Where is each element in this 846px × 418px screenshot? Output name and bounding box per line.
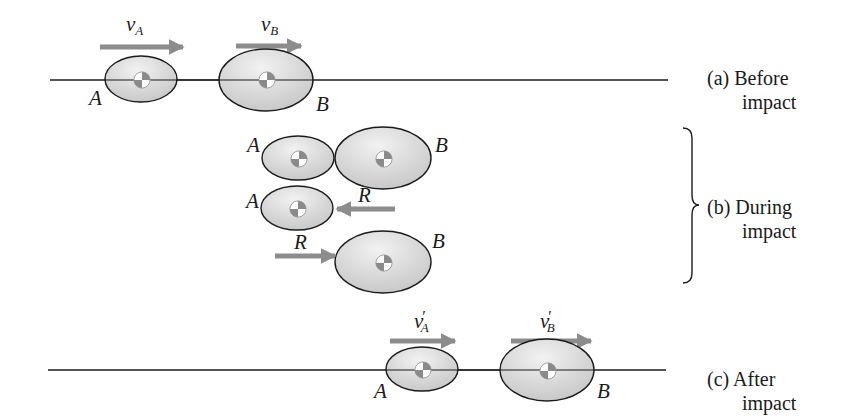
center-of-mass-icon — [259, 72, 275, 88]
panel-after-impact — [48, 339, 666, 401]
center-of-mass-icon — [415, 362, 431, 378]
body-label-b: B — [316, 94, 329, 115]
body-label-b-after: B — [597, 381, 610, 402]
velocity-label-a-after: v′A — [414, 309, 429, 334]
caption-during-impact: (b) Duringimpact — [707, 195, 796, 243]
center-of-mass-icon — [376, 255, 392, 271]
panel-before-impact — [50, 46, 668, 111]
center-of-mass-icon — [134, 72, 150, 88]
center-of-mass-icon — [540, 363, 556, 379]
center-of-mass-icon — [376, 151, 392, 167]
curly-brace — [683, 128, 699, 283]
velocity-label-a: vA — [126, 14, 143, 37]
body-label-a-after: A — [374, 381, 387, 402]
center-of-mass-icon — [290, 201, 306, 217]
body-label-a: A — [89, 88, 102, 109]
caption-before-impact: (a) Beforeimpact — [707, 66, 796, 114]
force-label-on-a: R — [358, 185, 371, 206]
body-label-b-contact: B — [435, 135, 448, 156]
body-label-b-free: B — [432, 231, 445, 252]
velocity-label-b-after: v′B — [540, 309, 555, 334]
caption-after-impact: (c) Afterimpact — [707, 367, 796, 415]
center-of-mass-icon — [291, 151, 307, 167]
panel-during-impact — [261, 127, 699, 293]
body-label-a-contact: A — [247, 135, 260, 156]
force-label-on-b: R — [294, 232, 307, 253]
velocity-label-b: vB — [261, 14, 278, 37]
body-label-a-free: A — [246, 191, 259, 212]
